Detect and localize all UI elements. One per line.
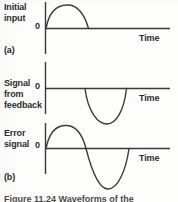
zero-label-error-signal: 0 (35, 140, 40, 151)
y-axis-label-error-signal-line-1: Error (4, 128, 29, 139)
time-label-signal-from-feedback: Time (139, 93, 159, 104)
panel-tag-a: (a) (4, 45, 15, 56)
panel-tag-b: (b) (4, 172, 15, 183)
y-axis-label-signal-from-feedback-line-3: feedback (4, 100, 42, 111)
y-axis-label-error-signal-line-2: signal (4, 139, 29, 150)
curve-initial-input (46, 5, 89, 29)
y-axis-label-initial-input-line-1: Initial (4, 2, 26, 13)
figure-container: Initial input 0 Time (a) Signal from fee… (0, 0, 178, 202)
curve-signal-from-feedback (85, 89, 127, 125)
y-axis-label-initial-input-line-2: input (4, 13, 26, 24)
time-label-error-signal: Time (139, 153, 159, 164)
figure-caption: Figure 11.24 Waveforms of the (4, 194, 178, 202)
zero-label-initial-input: 0 (35, 21, 40, 32)
zero-label-signal-from-feedback: 0 (35, 81, 40, 92)
time-label-initial-input: Time (139, 33, 159, 44)
y-axis-label-error-signal: Error signal (4, 128, 29, 150)
y-axis-label-initial-input: Initial input (4, 2, 26, 24)
panel-initial-input (45, 2, 170, 54)
curve-error-signal (46, 125, 129, 189)
